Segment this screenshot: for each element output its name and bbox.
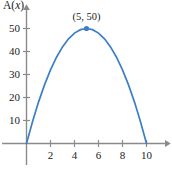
- x-tick-label-6: 6: [87, 150, 110, 161]
- x-tick-label-8: 8: [111, 150, 134, 161]
- vertex-marker-dot: [84, 26, 89, 31]
- y-tick-label-10: 10: [0, 115, 20, 126]
- y-axis-label-close: ): [20, 0, 24, 11]
- y-tick-label-50: 50: [0, 23, 20, 34]
- y-tick-label-20: 20: [0, 92, 20, 103]
- x-tick-label-2: 2: [39, 150, 62, 161]
- parabola-plot: [0, 0, 172, 171]
- y-tick-label-30: 30: [0, 69, 20, 80]
- y-tick-label-40: 40: [0, 46, 20, 57]
- x-tick-label-10: 10: [135, 150, 158, 161]
- x-tick-label-4: 4: [63, 150, 86, 161]
- vertex-annotation-label: (5, 50): [63, 12, 111, 23]
- chart-figure: A(x) (5, 50) 10 20 30 40 50 2 4 6 8 10: [0, 0, 172, 171]
- y-axis-label: A(x): [3, 0, 24, 12]
- parabola-curve: [27, 29, 147, 144]
- y-axis-label-func: A(: [3, 0, 15, 11]
